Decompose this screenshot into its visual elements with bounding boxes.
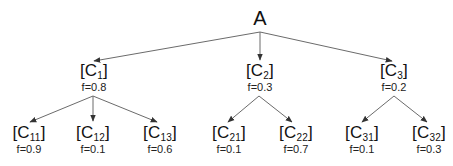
node-f-value: f=0.1 [76, 143, 110, 155]
node-C11: [C11] f=0.9 [12, 124, 45, 155]
node-A: A [253, 9, 267, 27]
node-f-value: f=0.8 [80, 81, 108, 93]
node-C13: [C13] f=0.6 [143, 124, 177, 155]
node-C3: [C3] f=0.2 [380, 62, 408, 93]
node-f-value: f=0.6 [143, 143, 177, 155]
edge-C1-C11 [30, 96, 93, 122]
node-C1: [C1] f=0.8 [80, 62, 108, 93]
node-label: [C31] [345, 124, 379, 142]
node-label: [C1] [80, 62, 108, 80]
node-f-value: f=0.3 [246, 81, 274, 93]
tree-diagram: A [C1] f=0.8 [C2] f=0.3 [C3] f=0.2 [C11]… [0, 0, 453, 166]
node-label: [C3] [380, 62, 408, 80]
node-f-value: f=0.9 [12, 143, 45, 155]
edge-C2-C21 [228, 96, 259, 122]
node-f-value: f=0.1 [212, 143, 246, 155]
node-C21: [C21] f=0.1 [212, 124, 246, 155]
node-C32: [C32] f=0.3 [412, 124, 446, 155]
node-C31: [C31] f=0.1 [345, 124, 379, 155]
node-label: [C11] [12, 124, 45, 142]
edge-C1-C13 [93, 96, 157, 122]
edge-C3-C32 [394, 96, 427, 122]
node-label: [C12] [76, 124, 110, 142]
node-label: [C32] [412, 124, 446, 142]
node-f-value: f=0.3 [412, 143, 446, 155]
edge-A-C1 [94, 32, 260, 61]
node-label: [C2] [246, 62, 274, 80]
node-label: [C21] [212, 124, 246, 142]
node-label: [C13] [143, 124, 177, 142]
node-C22: [C22] f=0.7 [279, 124, 313, 155]
edge-C2-C22 [259, 96, 292, 122]
node-f-value: f=0.2 [380, 81, 408, 93]
node-label: A [253, 9, 267, 27]
node-C12: [C12] f=0.1 [76, 124, 110, 155]
node-f-value: f=0.7 [279, 143, 313, 155]
node-f-value: f=0.1 [345, 143, 379, 155]
node-label: [C22] [279, 124, 313, 142]
edge-C3-C31 [362, 96, 394, 122]
edge-A-C3 [260, 32, 392, 61]
node-C2: [C2] f=0.3 [246, 62, 274, 93]
